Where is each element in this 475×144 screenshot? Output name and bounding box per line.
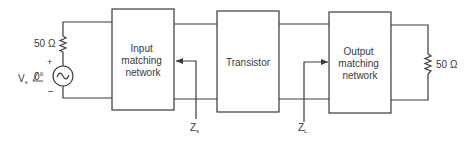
zs-label: Zs [190,122,199,134]
zl-arrow-icon [304,62,328,122]
source-minus-label: − [48,86,54,97]
circuit-svg: 50 Ω + Vs 0° − Input matching network Tr… [0,0,475,144]
source-top-wire [63,22,112,34]
transistor-block-label: Transistor [226,57,271,68]
amplifier-matching-diagram: 50 Ω + Vs 0° − Input matching network Tr… [0,0,475,144]
source-bottom-wire [63,86,112,98]
load-resistor-label: 50 Ω [436,59,458,70]
source-plus-label: + [47,57,52,67]
load-top-wire [391,25,428,54]
output-block-label: Output matching network [338,46,381,81]
source-resistor-label: 50 Ω [34,38,56,49]
input-block-label: Input matching network [121,43,164,78]
sine-wave-icon [57,73,69,79]
load-bottom-wire [391,74,428,100]
zs-arrow-icon [176,61,196,119]
load-resistor-icon [425,54,431,74]
zl-label: ZL [298,122,308,134]
source-resistor-icon [60,34,66,66]
source-voltage-label: Vs [18,73,28,85]
